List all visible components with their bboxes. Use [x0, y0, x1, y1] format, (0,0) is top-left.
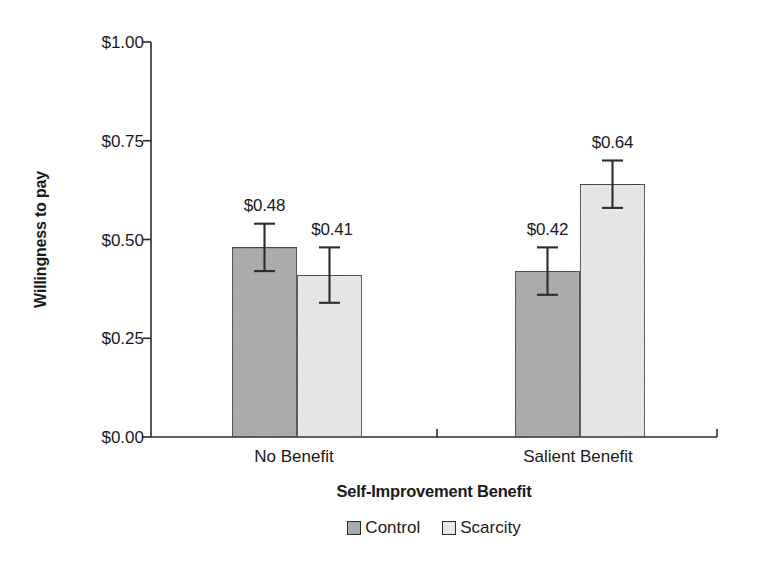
legend-swatch-scarcity-icon — [442, 521, 456, 535]
legend-label-scarcity: Scarcity — [460, 518, 520, 538]
legend-item-control: Control — [347, 518, 420, 538]
chart-legend: Control Scarcity — [151, 518, 717, 538]
bar-value-salient-benefit-scarcity: $0.64 — [592, 133, 634, 153]
legend-item-scarcity: Scarcity — [442, 518, 520, 538]
x-axis-title: Self-Improvement Benefit — [151, 482, 717, 501]
x-tick-label-salient-benefit: Salient Benefit — [523, 447, 633, 467]
bar-no-benefit-control — [232, 247, 297, 437]
bar-value-salient-benefit-control: $0.42 — [527, 220, 569, 240]
y-axis-ticks — [143, 42, 151, 437]
bar-chart: Willingness to pay $1.00 $0.75 $0.50 $0.… — [0, 0, 758, 575]
bar-value-no-benefit-control: $0.48 — [244, 196, 286, 216]
legend-label-control: Control — [365, 518, 420, 538]
bar-salient-benefit-scarcity — [580, 184, 645, 437]
bar-value-no-benefit-scarcity: $0.41 — [311, 220, 353, 240]
bar-salient-benefit-control — [515, 271, 580, 437]
legend-swatch-control-icon — [347, 521, 361, 535]
x-tick-label-no-benefit: No Benefit — [254, 447, 333, 467]
